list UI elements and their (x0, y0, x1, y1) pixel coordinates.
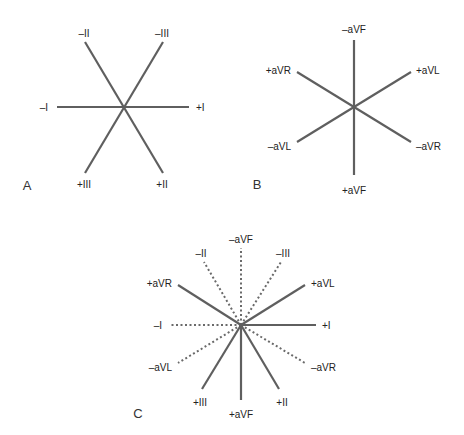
panel-letter-a: A (23, 178, 32, 193)
panel-c: –aVF –II –III +aVR +aVL –I +I –aVL –aVR … (133, 234, 336, 421)
neg-aVR-ray (241, 325, 305, 363)
label-pos-III: +III (193, 397, 207, 408)
label-neg-aVR: –aVR (416, 141, 441, 152)
label-pos-aVL: +aVL (311, 278, 335, 289)
label-neg-I: –I (40, 102, 48, 113)
pos-III-ray (202, 325, 241, 389)
label-neg-III: –III (276, 248, 290, 259)
label-pos-II: +II (276, 397, 287, 408)
pos-aVR-ray (178, 285, 241, 325)
label-pos-I: +I (196, 102, 205, 113)
panel-letter-c: C (133, 406, 142, 421)
neg-II-ray (204, 262, 241, 325)
pos-aVL-ray (241, 285, 305, 325)
panel-b: –aVF +aVR +aVL –aVL –aVR +aVF B (253, 24, 441, 196)
hexaxial-diagram: –II –III –I +I +III +II A –aVF +aVR +aVL… (0, 0, 464, 435)
label-pos-aVF: +aVF (342, 185, 366, 196)
label-neg-aVL: –aVL (149, 362, 173, 373)
panel-a: –II –III –I +I +III +II A (23, 28, 205, 193)
label-neg-aVF: –aVF (342, 24, 366, 35)
label-neg-aVL: –aVL (268, 141, 292, 152)
neg-aVL-ray (178, 325, 241, 363)
label-pos-aVR: +aVR (147, 278, 172, 289)
label-neg-aVR: –aVR (311, 362, 336, 373)
label-pos-aVF: +aVF (229, 409, 253, 420)
label-pos-III: +III (77, 179, 91, 190)
label-neg-II: –II (195, 248, 206, 259)
label-neg-aVF: –aVF (229, 234, 253, 245)
label-pos-aVL: +aVL (416, 65, 440, 76)
label-pos-aVR: +aVR (266, 65, 291, 76)
label-neg-II: –II (78, 28, 89, 39)
label-neg-I: –I (154, 320, 162, 331)
label-pos-I: +I (322, 320, 331, 331)
label-pos-II: +II (156, 179, 167, 190)
panel-letter-b: B (253, 177, 262, 192)
pos-II-ray (241, 325, 279, 389)
label-neg-III: –III (155, 28, 169, 39)
neg-III-ray (241, 262, 281, 325)
